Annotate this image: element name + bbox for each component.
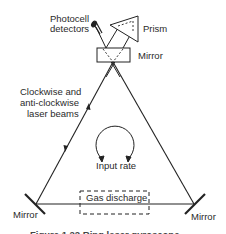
top-mirror <box>97 48 130 62</box>
prism-icon <box>110 16 138 42</box>
input-rate-label: Input rate <box>96 160 136 171</box>
right-mirror-label: Mirror <box>191 211 216 222</box>
detectors-label: detectors <box>50 23 89 34</box>
figure-caption: Figure 1.22 Ring laser gyroscope <box>30 229 179 234</box>
gas-discharge-label: Gas discharge <box>86 192 147 203</box>
beams-label-line3: laser beams <box>27 108 79 119</box>
left-mirror-label: Mirror <box>13 209 38 220</box>
photocell-detectors-icon <box>91 20 102 34</box>
input-rate-rotation-icon <box>96 126 134 162</box>
prism-label: Prism <box>143 23 167 34</box>
top-mirror-label: Mirror <box>138 50 163 61</box>
ring-laser-gyroscope-diagram: Photocell detectors Prism Mirror Clockwi… <box>0 0 226 234</box>
beams-label-line1: Clockwise and <box>20 86 81 97</box>
laser-beam-path <box>36 62 194 204</box>
beams-label-line2: anti-clockwise <box>20 97 79 108</box>
